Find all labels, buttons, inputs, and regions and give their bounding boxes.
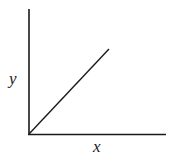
y-axis-label: y [9, 70, 17, 87]
x-axis-label: x [93, 138, 101, 155]
proportional-line [29, 49, 109, 134]
diagram-canvas [0, 0, 173, 162]
